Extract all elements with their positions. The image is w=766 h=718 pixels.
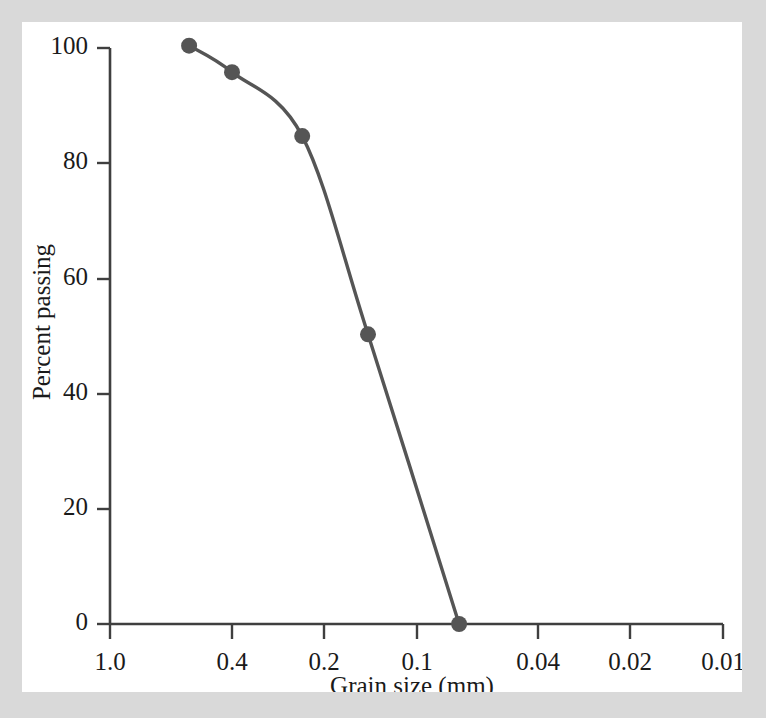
x-tick-label-1-0: 1.0 [94,648,125,675]
chart-panel: 100 80 60 40 20 0 1.0 0.4 0.2 [22,22,742,692]
y-axis-title: Percent passing [28,243,55,400]
y-tick-label-60: 60 [63,263,88,290]
y-tick-label-80: 80 [63,147,88,174]
y-tick-label-20: 20 [63,493,88,520]
data-series-grain-size [181,38,467,632]
y-tick-label-40: 40 [63,378,88,405]
x-tick-label-0-1: 0.1 [401,648,432,675]
y-axis-ticks [97,48,110,624]
data-point [294,128,310,144]
x-tick-label-0-2: 0.2 [308,648,339,675]
y-tick-label-100: 100 [51,32,89,59]
x-tick-label-0-4: 0.4 [216,648,248,675]
data-point [451,616,467,632]
x-axis-tick-labels: 1.0 0.4 0.2 0.1 0.04 0.02 0.01 [94,648,742,675]
x-tick-label-0-02: 0.02 [608,648,652,675]
series-line [189,46,459,624]
x-axis-title: Grain size (mm) [330,672,494,692]
figure-root: 100 80 60 40 20 0 1.0 0.4 0.2 [0,0,766,718]
x-tick-label-0-01: 0.01 [701,648,742,675]
y-axis-tick-labels: 100 80 60 40 20 0 [51,32,89,635]
data-point [224,64,240,80]
data-point [360,326,376,342]
y-tick-label-0: 0 [76,608,89,635]
grain-size-distribution-chart: 100 80 60 40 20 0 1.0 0.4 0.2 [22,22,742,692]
data-point [181,38,197,54]
x-tick-label-0-04: 0.04 [516,648,560,675]
x-axis-ticks [110,624,723,639]
